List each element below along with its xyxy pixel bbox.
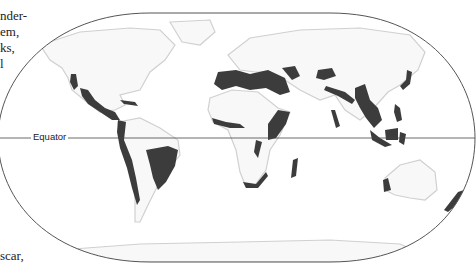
hotspot-new-zealand xyxy=(444,190,464,212)
world-map xyxy=(0,0,476,265)
australia xyxy=(385,160,437,200)
africa xyxy=(208,90,290,187)
hotspot-madagascar xyxy=(291,158,298,178)
antarctica xyxy=(10,240,440,262)
north-america xyxy=(40,28,175,112)
hotspot-wallacea xyxy=(399,132,406,145)
map-content xyxy=(10,20,464,262)
equator-label: Equator xyxy=(31,131,68,143)
greenland xyxy=(170,20,215,45)
hotspot-western-ghats xyxy=(331,110,340,128)
hotspot-philippines xyxy=(394,104,402,122)
